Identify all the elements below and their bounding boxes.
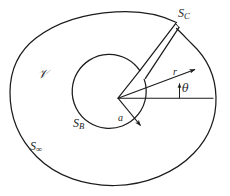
diagram-svg <box>0 0 230 196</box>
cut-edge-left <box>140 24 176 71</box>
angular-coordinate-label: θ <box>182 83 189 94</box>
region-label: 𝒱 <box>38 68 48 80</box>
figure-canvas: SC SB S∞ 𝒱 r θ a <box>0 0 230 196</box>
inner-boundary-label: SB <box>73 117 84 131</box>
outer-boundary-label: S∞ <box>30 140 42 154</box>
cut-boundary-label: SC <box>178 7 190 21</box>
inner-radius-label: a <box>118 113 123 123</box>
cut-outer-cap <box>176 24 179 28</box>
radial-coordinate-label: r <box>173 67 177 77</box>
